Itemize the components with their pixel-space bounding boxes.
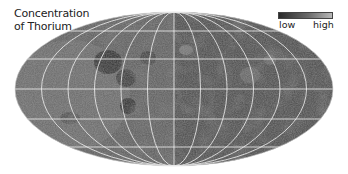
thorium-map	[0, 0, 348, 174]
map-graticule	[0, 12, 348, 166]
